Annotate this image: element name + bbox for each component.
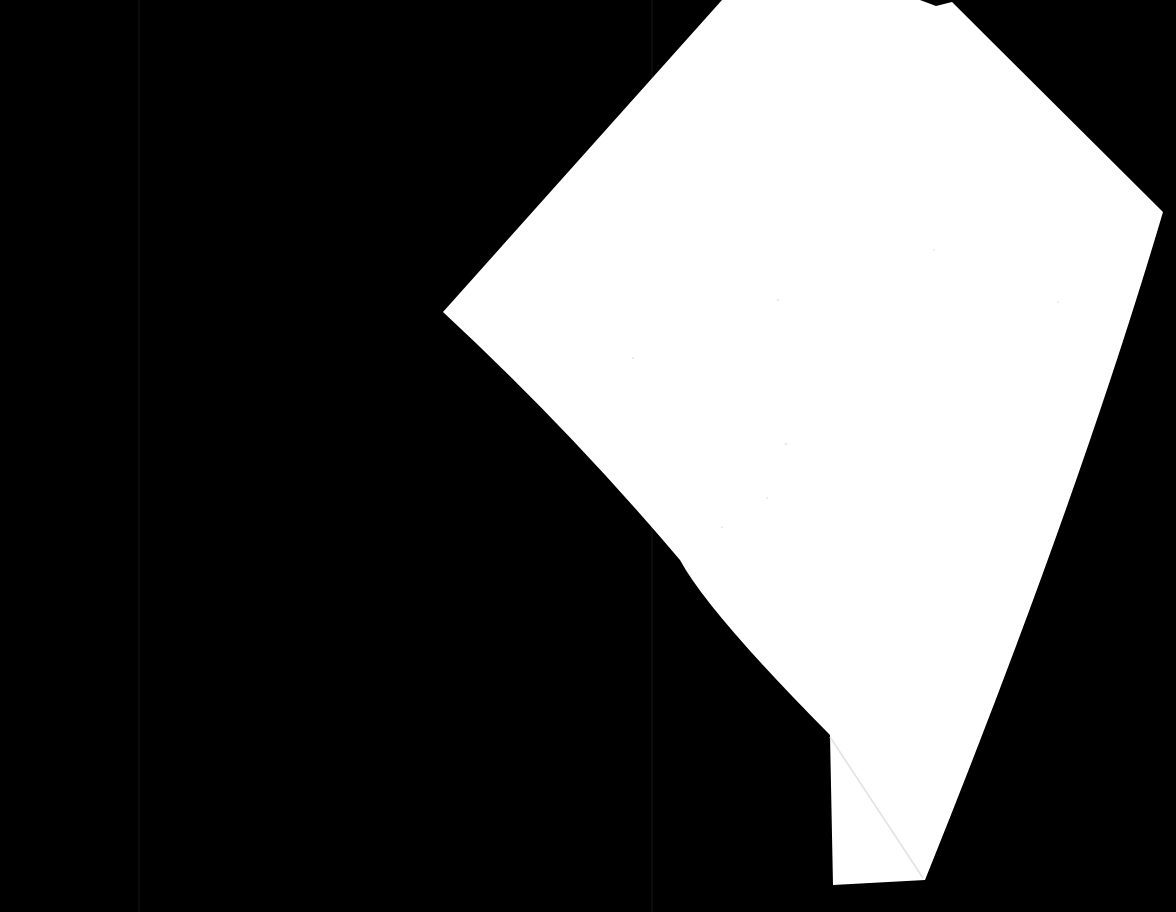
paper-speck bbox=[777, 299, 779, 301]
paper-scene-svg bbox=[0, 0, 1176, 912]
paper-speck bbox=[766, 497, 768, 499]
paper-speck bbox=[721, 526, 723, 528]
paper-speck bbox=[785, 443, 788, 446]
paper-speck bbox=[933, 249, 935, 251]
paper-speck bbox=[632, 357, 634, 359]
scene-root bbox=[0, 0, 1176, 912]
background-seam-left bbox=[138, 0, 140, 912]
paper-speck bbox=[1057, 301, 1059, 303]
